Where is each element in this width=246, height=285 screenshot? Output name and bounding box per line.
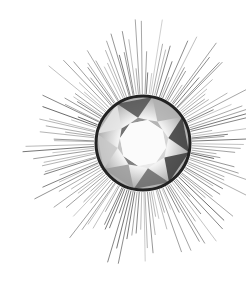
diamond-gem bbox=[96, 96, 190, 190]
diamond-sunburst-illustration bbox=[0, 0, 246, 285]
